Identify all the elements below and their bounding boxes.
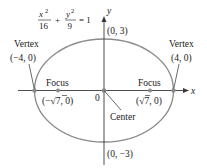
ellipse-diagram: x y 0 x 2 16 + y 2 9 = 1 (0, 3) (0, −3) … <box>0 0 207 168</box>
left-focus-title: Focus <box>46 78 69 88</box>
svg-text:16: 16 <box>39 21 49 31</box>
center-label: Center <box>110 112 136 122</box>
svg-text:y: y <box>65 9 70 19</box>
left-vertex-coord: (−4, 0) <box>10 53 36 64</box>
svg-text:(−√7, 0): (−√7, 0) <box>42 96 73 107</box>
center-leader <box>104 91 121 111</box>
origin-label: 0 <box>95 93 100 103</box>
x-axis-label: x <box>190 86 196 96</box>
svg-text:= 1: = 1 <box>79 15 91 25</box>
right-focus-title: Focus <box>138 78 161 88</box>
bottom-point-label: (0, −3) <box>107 149 133 160</box>
right-vertex-leader <box>174 64 180 90</box>
right-focus-dot <box>148 89 152 93</box>
right-vertex-title: Vertex <box>169 39 194 49</box>
y-axis-arrow-icon <box>102 16 107 22</box>
svg-text:(√7, 0): (√7, 0) <box>136 96 162 107</box>
y-axis-label: y <box>106 6 112 16</box>
left-vertex-dot <box>32 88 36 92</box>
top-point-label: (0, 3) <box>107 26 128 37</box>
svg-text:x: x <box>38 9 43 19</box>
left-vertex-leader <box>29 64 35 90</box>
left-focus-dot <box>56 89 60 93</box>
right-vertex-coord: (4, 0) <box>171 53 192 64</box>
left-focus-coord: (−√7, 0) <box>42 96 73 108</box>
svg-text:9: 9 <box>68 21 73 31</box>
right-vertex-dot <box>171 88 175 92</box>
svg-text:2: 2 <box>71 7 74 14</box>
ellipse-equation: x 2 16 + y 2 9 = 1 <box>38 7 91 31</box>
x-axis-arrow-icon <box>183 88 189 93</box>
svg-text:2: 2 <box>45 7 48 14</box>
svg-text:+: + <box>55 15 60 25</box>
right-focus-coord: (√7, 0) <box>136 96 162 108</box>
left-vertex-title: Vertex <box>14 39 39 49</box>
